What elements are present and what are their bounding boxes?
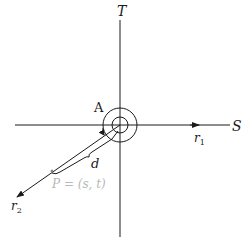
angle-a-label: A [93,100,104,115]
r1-label: r1 [194,131,205,147]
s-axis-label: S [232,118,242,134]
point-p-label: P = (s, t) [51,177,106,191]
t-axis-label: T [117,3,128,19]
r2-label: r2 [11,199,22,215]
polar-coordinate-diagram: T S r1 r2 A d P = (s, t) [0,0,250,243]
distance-d-label: d [91,156,99,171]
point-p [51,170,54,173]
